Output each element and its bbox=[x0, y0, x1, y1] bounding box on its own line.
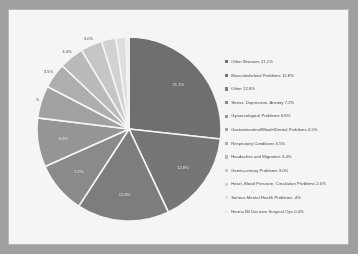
legend-item-label: Heart, Blood Pressure, Circulation Probl… bbox=[231, 177, 326, 191]
legend-item[interactable]: Gastrointestinal/Mouth/Dental Problems 4… bbox=[225, 123, 358, 137]
legend-swatch-icon bbox=[225, 169, 228, 172]
legend-item[interactable]: Stress, Depression, Anxiety 7.2% bbox=[225, 96, 358, 110]
pie-chart: 21.1%12.8%12.8%7.2%6.8%4.5%3.5%3.4%3.0%2… bbox=[36, 34, 222, 224]
legend-swatch-icon bbox=[225, 183, 228, 186]
legend-item-label: Respiratory Conditions 3.5% bbox=[231, 137, 285, 151]
pie-slice-label: 7.2% bbox=[74, 169, 84, 174]
legend-swatch-icon bbox=[225, 128, 228, 131]
legend-item-label: Gastrointestinal/Mouth/Dental Problems 4… bbox=[231, 123, 317, 137]
legend-item-label: Serious Mental Health Problems .4% bbox=[231, 191, 301, 205]
pie-slice-label: 6.8% bbox=[59, 136, 69, 141]
legend-item-label: Other Illnesses 21.1% bbox=[231, 55, 273, 69]
pie-slice-label: 3.0% bbox=[84, 36, 94, 41]
pie-slice-label: 12.8% bbox=[177, 165, 189, 170]
legend-swatch-icon bbox=[225, 74, 228, 77]
legend-item-label: Genito-urinary Problems 3.0% bbox=[231, 164, 288, 178]
legend-item[interactable]: Respiratory Conditions 3.5% bbox=[225, 137, 358, 151]
legend-swatch-icon bbox=[225, 60, 228, 63]
legend-item[interactable]: Serious Mental Health Problems .4% bbox=[225, 191, 358, 205]
pie-slice-label: 3.4% bbox=[62, 49, 72, 54]
legend-item[interactable]: Gynaecological Problems 6.8% bbox=[225, 109, 358, 123]
legend-item[interactable]: Musculoskeletal Problems 12.8% bbox=[225, 69, 358, 83]
page-background: 21.1%12.8%12.8%7.2%6.8%4.5%3.5%3.4%3.0%2… bbox=[0, 0, 358, 254]
pie-slice-label: 12.8% bbox=[119, 192, 131, 197]
legend-item[interactable]: Other Illnesses 21.1% bbox=[225, 55, 358, 69]
legend-item-label: Gynaecological Problems 6.8% bbox=[231, 109, 290, 123]
legend-swatch-icon bbox=[225, 115, 228, 118]
legend-item-label: Headaches and Migraines 3.4% bbox=[231, 150, 291, 164]
pie-chart-svg: 21.1%12.8%12.8%7.2%6.8%4.5%3.5%3.4%3.0%2… bbox=[36, 34, 222, 224]
legend-item[interactable]: Hernia Nil Decisive Surgical Ops 0.4% bbox=[225, 205, 358, 219]
legend-item-label: Musculoskeletal Problems 12.8% bbox=[231, 69, 294, 83]
legend-item-label: Hernia Nil Decisive Surgical Ops 0.4% bbox=[231, 205, 304, 219]
chart-legend: Other Illnesses 21.1%Musculoskeletal Pro… bbox=[225, 55, 358, 218]
pie-slice-label: 4.5% bbox=[36, 97, 39, 102]
legend-item[interactable]: Genito-urinary Problems 3.0% bbox=[225, 164, 358, 178]
pie-slice-label: 3.5% bbox=[44, 69, 54, 74]
legend-item-label: Other 12.8% bbox=[231, 82, 255, 96]
pie-slice-label: 21.1% bbox=[173, 82, 185, 87]
legend-swatch-icon bbox=[225, 101, 228, 104]
legend-swatch-icon bbox=[225, 87, 228, 90]
legend-item[interactable]: Headaches and Migraines 3.4% bbox=[225, 150, 358, 164]
pie-slice[interactable] bbox=[129, 37, 221, 139]
legend-swatch-icon bbox=[225, 142, 228, 145]
legend-item[interactable]: Other 12.8% bbox=[225, 82, 358, 96]
legend-item-label: Stress, Depression, Anxiety 7.2% bbox=[231, 96, 294, 110]
legend-swatch-icon bbox=[225, 196, 228, 199]
legend-swatch-icon bbox=[225, 155, 228, 158]
chart-sheet: 21.1%12.8%12.8%7.2%6.8%4.5%3.5%3.4%3.0%2… bbox=[8, 9, 349, 245]
pie-slice-label: 2.0% bbox=[102, 34, 112, 35]
legend-item[interactable]: Heart, Blood Pressure, Circulation Probl… bbox=[225, 177, 358, 191]
legend-swatch-icon bbox=[225, 210, 228, 213]
